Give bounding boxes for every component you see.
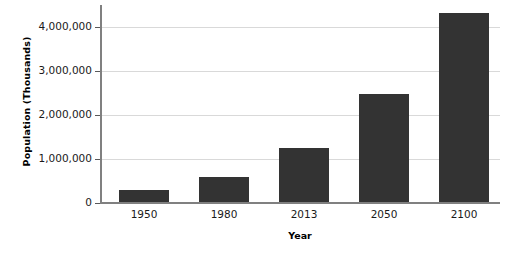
x-axis-tick-label-1980: 1980	[184, 208, 264, 220]
bar-1980	[199, 177, 249, 202]
y-axis-tick-label: 2,000,000	[20, 109, 92, 120]
y-axis-tick-label: 4,000,000	[20, 21, 92, 32]
x-axis-line	[100, 202, 500, 204]
x-axis-tick-labels: 19501980201320502100	[100, 208, 500, 224]
y-axis-tick-label: 3,000,000	[20, 65, 92, 76]
y-axis-tick-labels: 01,000,0002,000,0003,000,0004,000,000	[16, 0, 92, 254]
y-axis-tick-label: 0	[20, 197, 92, 208]
bar-1950	[119, 190, 169, 202]
y-axis-line	[100, 5, 102, 203]
x-axis-title: Year	[100, 230, 500, 241]
bar-chart: Population (Thousands) 01,000,0002,000,0…	[0, 0, 508, 254]
x-axis-tick-label-2013: 2013	[264, 208, 344, 220]
plot-area	[100, 5, 500, 203]
bar-2050	[359, 94, 409, 202]
y-axis-tick-label: 1,000,000	[20, 153, 92, 164]
x-axis-tick-label-2100: 2100	[424, 208, 504, 220]
x-axis-tick-label-1950: 1950	[104, 208, 184, 220]
bar-2013	[279, 148, 329, 202]
bar-2100	[439, 13, 489, 202]
x-axis-tick-label-2050: 2050	[344, 208, 424, 220]
